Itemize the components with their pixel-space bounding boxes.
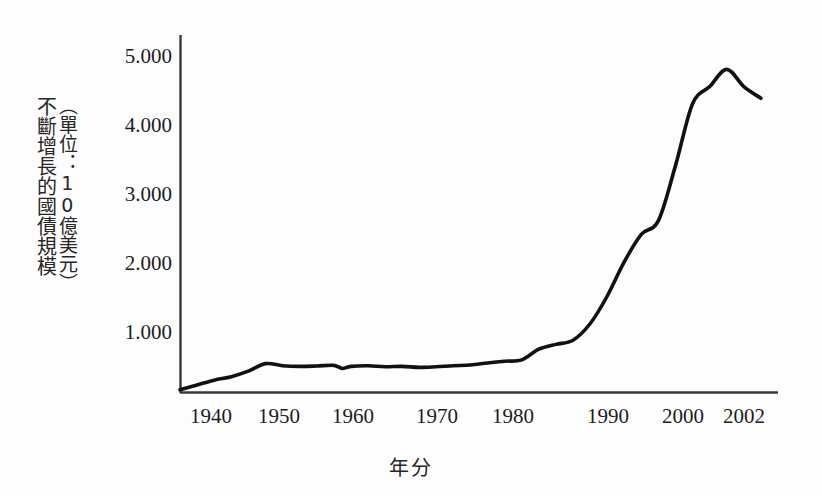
- debt-line-series: [180, 69, 761, 389]
- x-tick-label-1950: 1950: [258, 404, 300, 429]
- x-tick-label-1960: 1960: [332, 404, 374, 429]
- x-tick-label-2000: 2000: [662, 404, 704, 429]
- x-tick-label-1940: 1940: [190, 404, 232, 429]
- x-axis-title: 年分: [0, 452, 822, 481]
- x-tick-label-1990: 1990: [587, 404, 629, 429]
- x-tick-label-1980: 1980: [492, 404, 534, 429]
- chart-figure: 不斷增長的國債規模 （單位：10億美元） 5.000 4.000 3.000 2…: [0, 0, 822, 496]
- x-tick-label-1970: 1970: [416, 404, 458, 429]
- x-tick-label-2002: 2002: [723, 404, 765, 429]
